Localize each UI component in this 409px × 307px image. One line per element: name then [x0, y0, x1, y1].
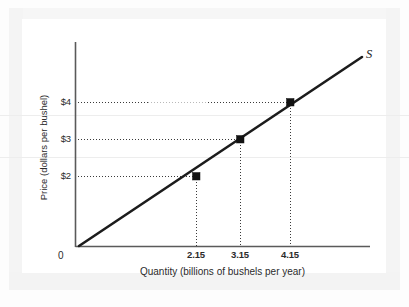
y-tick-label-4: $4	[47, 96, 71, 107]
y-axis-title: Price (dollars per bushel)	[38, 78, 49, 218]
x-tick-label-415: 4.15	[270, 249, 310, 260]
y-tick-label-2: $2	[47, 170, 71, 181]
data-point-marker	[193, 173, 201, 181]
x-axis-title: Quantity (billions of bushels per year)	[75, 266, 370, 277]
origin-label: 0	[58, 250, 64, 261]
data-point-marker	[287, 99, 295, 107]
data-point-marker	[237, 136, 245, 144]
y-tick-label-3: $3	[47, 133, 71, 144]
supply-curve-label: S	[366, 47, 372, 62]
supply-curve-chart: $4 $3 $2 2.15 3.15 4.15 0 S Price (dolla…	[0, 0, 409, 307]
x-tick-label-315: 3.15	[220, 249, 260, 260]
figure-page: $4 $3 $2 2.15 3.15 4.15 0 S Price (dolla…	[0, 0, 409, 307]
supply-curve-line	[79, 57, 362, 246]
x-tick-label-215: 2.15	[176, 249, 216, 260]
